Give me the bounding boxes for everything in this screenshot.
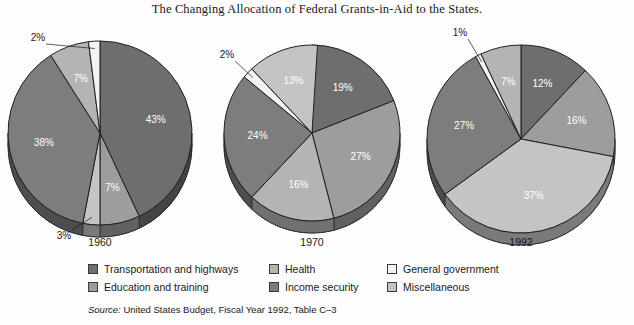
slice-leader-1970-4 <box>235 61 253 78</box>
legend-item-health[interactable]: Health <box>269 263 387 275</box>
slice-value-1960-4: 7% <box>73 73 88 84</box>
legend-swatch-general-government <box>387 264 397 274</box>
pie-year-label-1960: 1960 <box>88 236 112 248</box>
legend-item-transportation-and-highways[interactable]: Transportation and highways <box>88 263 269 275</box>
slice-value-1960-5: 2% <box>31 32 46 43</box>
legend-label-income-security: Income security <box>285 281 359 293</box>
pie-chart-1970: 19%27%16%24%2%13%1970 <box>220 45 400 248</box>
legend-item-miscellaneous[interactable]: Miscellaneous <box>387 281 537 293</box>
legend-row-2: Education and training Income security M… <box>88 278 588 296</box>
legend-swatch-income-security <box>269 282 279 292</box>
slice-value-1992-0: 12% <box>532 78 552 89</box>
source-label: Source: <box>88 304 121 315</box>
legend-label-transportation: Transportation and highways <box>104 263 238 275</box>
slice-value-1960-0: 43% <box>146 114 166 125</box>
legend-swatch-transportation <box>88 264 98 274</box>
legend-swatch-health <box>269 264 279 274</box>
legend-label-miscellaneous: Miscellaneous <box>403 281 470 293</box>
legend-item-income-security[interactable]: Income security <box>269 281 387 293</box>
legend-item-general-government[interactable]: General government <box>387 263 537 275</box>
source-note: Source: United States Budget, Fiscal Yea… <box>88 304 337 315</box>
legend-label-education: Education and training <box>104 281 209 293</box>
slice-value-1992-4: 1% <box>453 27 468 38</box>
slice-value-1970-4: 2% <box>220 49 235 60</box>
source-text: United States Budget, Fiscal Year 1992, … <box>123 304 336 315</box>
legend-label-general-government: General government <box>403 263 499 275</box>
slice-value-1960-2: 3% <box>57 230 72 241</box>
slice-value-1970-0: 19% <box>333 82 353 93</box>
figure-root: The Changing Allocation of Federal Grant… <box>0 0 634 325</box>
legend-item-education-and-training[interactable]: Education and training <box>88 281 269 293</box>
slice-value-1992-5: 7% <box>501 76 516 87</box>
legend-row-1: Transportation and highways Health Gener… <box>88 260 588 278</box>
legend-swatch-miscellaneous <box>387 282 397 292</box>
pie-year-label-1970: 1970 <box>300 236 324 248</box>
pie-chart-1960: 43%7%3%38%7%2%1960 <box>8 32 192 248</box>
pie-year-label-1992: 1992 <box>509 236 533 248</box>
slice-value-1970-5: 13% <box>284 75 304 86</box>
slice-value-1970-3: 24% <box>248 130 268 141</box>
slice-value-1960-1: 7% <box>105 182 120 193</box>
legend-label-health: Health <box>285 263 315 275</box>
slice-value-1970-1: 27% <box>351 151 371 162</box>
slice-value-1960-3: 38% <box>34 137 54 148</box>
legend-swatch-education <box>88 282 98 292</box>
slice-value-1992-3: 27% <box>454 120 474 131</box>
slice-value-1992-1: 16% <box>566 115 586 126</box>
slice-value-1970-2: 16% <box>288 179 308 190</box>
pie-chart-1992: 12%16%37%27%1%7%1992 <box>427 27 615 248</box>
chart-legend: Transportation and highways Health Gener… <box>88 260 588 296</box>
slice-value-1992-2: 37% <box>524 190 544 201</box>
